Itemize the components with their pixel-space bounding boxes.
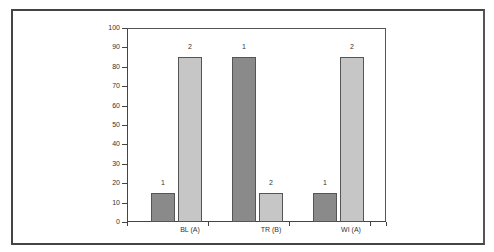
y-tick-label: 100	[90, 24, 120, 32]
y-tick-label: 0	[90, 218, 120, 226]
y-tick	[122, 203, 127, 204]
y-tick-label: 80	[90, 63, 120, 71]
y-tick	[122, 47, 127, 48]
bar-data-label: 2	[178, 43, 202, 51]
category-label-wi-a: WI (A)	[331, 225, 371, 234]
y-tick	[122, 106, 127, 107]
y-tick	[122, 144, 127, 145]
y-tick	[122, 164, 127, 165]
bar-tr-b-series-2	[259, 193, 283, 222]
y-tick	[122, 67, 127, 68]
x-tick	[127, 222, 128, 226]
y-tick-label: 90	[90, 43, 120, 51]
bar-bl-a-series-2	[178, 57, 202, 222]
y-tick	[122, 183, 127, 184]
bar-wi-a-series-1	[313, 193, 337, 222]
category-label-tr-b: TR (B)	[251, 225, 291, 234]
bar-data-label: 1	[232, 43, 256, 51]
x-tick	[386, 222, 387, 226]
bar-data-label: 1	[151, 179, 175, 187]
y-tick-label: 10	[90, 199, 120, 207]
bar-data-label: 1	[313, 179, 337, 187]
y-tick-label: 30	[90, 160, 120, 168]
bar-data-label: 2	[340, 43, 364, 51]
y-tick-label: 70	[90, 82, 120, 90]
bar-bl-a-series-1	[151, 193, 175, 222]
y-tick-label: 40	[90, 140, 120, 148]
bar-data-label: 2	[259, 179, 283, 187]
bar-wi-a-series-2	[340, 57, 364, 222]
y-tick	[122, 86, 127, 87]
category-label-bl-a: BL (A)	[170, 225, 210, 234]
bar-tr-b-series-1	[232, 57, 256, 222]
y-tick-label: 50	[90, 121, 120, 129]
y-tick	[122, 125, 127, 126]
y-tick	[122, 28, 127, 29]
y-tick-label: 20	[90, 179, 120, 187]
y-tick-label: 60	[90, 102, 120, 110]
